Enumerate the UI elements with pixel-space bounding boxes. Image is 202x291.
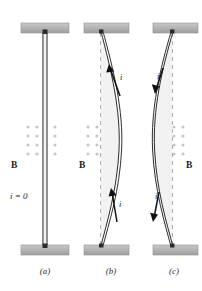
panel-a-support-bottom — [21, 244, 69, 256]
panel-b-caption: (b) — [106, 266, 117, 276]
physics-figure-wire-in-magnetic-field: B i = 0 (a) — [0, 0, 202, 291]
figure-canvas: B i = 0 (a) — [0, 0, 202, 291]
panel-a-caption: (a) — [40, 266, 51, 276]
panel-a-current-label: i = 0 — [10, 191, 28, 201]
panel-a-field-label: B — [11, 160, 18, 170]
panel-c-caption: (c) — [169, 266, 179, 276]
panel-a-wire — [43, 29, 48, 249]
panel-a-support-top — [21, 23, 69, 34]
panel-b-support-top — [84, 23, 129, 34]
panel-c-field-label: B — [186, 160, 193, 170]
panel-c-support-top — [153, 23, 198, 34]
panel-c-support-bottom — [153, 244, 198, 256]
panel-b-support-bottom — [84, 244, 129, 256]
panel-b-field-label: B — [79, 160, 86, 170]
